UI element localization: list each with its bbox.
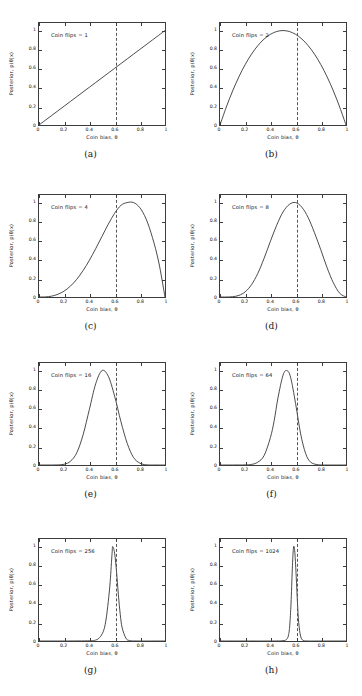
y-tick-d-3 <box>343 241 346 242</box>
x-tick-f-1 <box>246 462 247 465</box>
coin-flips-annotation: Coin flips = 64 <box>232 373 272 378</box>
x-axis-label-h: Coin bias, θ <box>219 651 347 656</box>
posterior-curve-d <box>220 195 346 297</box>
y-tick-g-2 <box>39 604 42 605</box>
panel-d: Coin flips = 800.20.40.60.8100.20.40.60.… <box>181 180 362 348</box>
subfigure-caption-e: (e) <box>0 490 181 499</box>
y-tick-label-d-5: 1 <box>201 199 217 204</box>
y-tick-label-f-4: 0.8 <box>201 387 217 392</box>
y-tick-label-f-1: 0.2 <box>201 444 217 449</box>
y-tick-f-5 <box>343 371 346 372</box>
x-tick-label-e-4: 0.8 <box>137 468 144 473</box>
x-tick-label-c-3: 0.6 <box>111 300 118 305</box>
subfigure-caption-c: (c) <box>0 322 181 331</box>
y-tick-label-h-3: 0.6 <box>201 582 217 587</box>
posterior-curve-b <box>220 23 346 125</box>
x-tick-b-4 <box>322 122 323 125</box>
x-tick-label-a-1: 0.2 <box>60 128 67 133</box>
y-tick-label-e-3: 0.6 <box>20 406 36 411</box>
panel-e: Coin flips = 1600.20.40.60.8100.20.40.60… <box>0 348 181 516</box>
y-tick-h-5 <box>220 547 223 548</box>
coin-flips-annotation: Coin flips = 1 <box>51 33 88 38</box>
x-tick-h-1 <box>246 539 247 542</box>
y-tick-g-1 <box>39 624 42 625</box>
y-tick-g-4 <box>162 566 165 567</box>
panel-f: Coin flips = 6400.20.40.60.8100.20.40.60… <box>181 348 362 516</box>
subfigure-caption-d: (d) <box>181 322 362 331</box>
x-tick-b-0 <box>220 122 221 125</box>
y-axis-label-c: Posterior, p(θ|x) <box>9 194 14 298</box>
x-tick-c-3 <box>116 294 117 297</box>
y-tick-label-g-4: 0.8 <box>20 563 36 568</box>
y-tick-g-3 <box>39 585 42 586</box>
y-tick-e-2 <box>162 428 165 429</box>
x-tick-label-h-5: 1 <box>346 644 349 649</box>
x-tick-c-0 <box>39 195 40 198</box>
true-bias-reference-line <box>297 23 298 125</box>
x-tick-label-h-3: 0.6 <box>292 644 299 649</box>
y-tick-label-e-0: 0 <box>20 464 36 469</box>
x-tick-g-4 <box>141 539 142 542</box>
x-tick-label-b-0: 0 <box>218 128 221 133</box>
x-tick-label-g-5: 1 <box>165 644 168 649</box>
y-tick-a-3 <box>39 69 42 70</box>
x-tick-f-2 <box>271 462 272 465</box>
y-tick-b-3 <box>343 69 346 70</box>
x-tick-b-0 <box>220 23 221 26</box>
y-tick-b-4 <box>343 50 346 51</box>
x-tick-e-4 <box>141 462 142 465</box>
y-tick-label-e-2: 0.4 <box>20 425 36 430</box>
posterior-figure-grid: Coin flips = 100.20.40.60.8100.20.40.60.… <box>0 0 362 696</box>
y-tick-h-2 <box>220 604 223 605</box>
x-tick-label-f-1: 0.2 <box>241 468 248 473</box>
y-tick-label-b-2: 0.4 <box>201 85 217 90</box>
y-tick-label-d-3: 0.6 <box>201 238 217 243</box>
x-tick-e-3 <box>116 462 117 465</box>
x-tick-g-1 <box>65 539 66 542</box>
y-tick-label-d-1: 0.2 <box>201 276 217 281</box>
x-tick-label-f-2: 0.4 <box>267 468 274 473</box>
y-tick-label-h-0: 0 <box>201 640 217 645</box>
plot-area-a: Coin flips = 1 <box>38 22 166 126</box>
coin-flips-annotation: Coin flips = 8 <box>232 205 269 210</box>
y-tick-label-g-3: 0.6 <box>20 582 36 587</box>
y-tick-a-2 <box>39 88 42 89</box>
x-tick-label-d-4: 0.8 <box>318 300 325 305</box>
x-tick-c-1 <box>65 195 66 198</box>
x-tick-g-4 <box>141 638 142 641</box>
y-tick-d-1 <box>220 280 223 281</box>
y-tick-b-5 <box>220 31 223 32</box>
x-tick-d-0 <box>220 294 221 297</box>
curve-path <box>220 370 346 465</box>
x-tick-a-3 <box>116 23 117 26</box>
x-tick-h-3 <box>297 638 298 641</box>
panel-g: Coin flips = 25600.20.40.60.8100.20.40.6… <box>0 516 181 696</box>
y-tick-a-2 <box>162 88 165 89</box>
posterior-curve-h <box>220 539 346 641</box>
y-tick-c-3 <box>162 241 165 242</box>
y-tick-a-3 <box>162 69 165 70</box>
x-tick-label-c-4: 0.8 <box>137 300 144 305</box>
x-tick-f-3 <box>297 363 298 366</box>
y-tick-e-1 <box>162 448 165 449</box>
true-bias-reference-line <box>297 195 298 297</box>
x-tick-label-b-1: 0.2 <box>241 128 248 133</box>
x-tick-label-f-4: 0.8 <box>318 468 325 473</box>
y-tick-a-5 <box>162 31 165 32</box>
x-tick-c-2 <box>90 195 91 198</box>
plot-area-b: Coin flips = 2 <box>219 22 347 126</box>
x-tick-d-3 <box>297 294 298 297</box>
x-tick-f-0 <box>220 363 221 366</box>
x-tick-label-f-5: 1 <box>346 468 349 473</box>
y-axis-label-h: Posterior, p(θ|x) <box>190 538 195 642</box>
y-tick-label-h-1: 0.2 <box>201 620 217 625</box>
y-tick-label-c-1: 0.2 <box>20 276 36 281</box>
curve-path <box>39 202 165 297</box>
y-tick-a-1 <box>162 108 165 109</box>
x-tick-label-b-3: 0.6 <box>292 128 299 133</box>
y-tick-label-d-4: 0.8 <box>201 219 217 224</box>
y-tick-e-4 <box>39 390 42 391</box>
x-tick-label-g-2: 0.4 <box>86 644 93 649</box>
y-tick-label-a-2: 0.4 <box>20 85 36 90</box>
y-tick-b-3 <box>220 69 223 70</box>
